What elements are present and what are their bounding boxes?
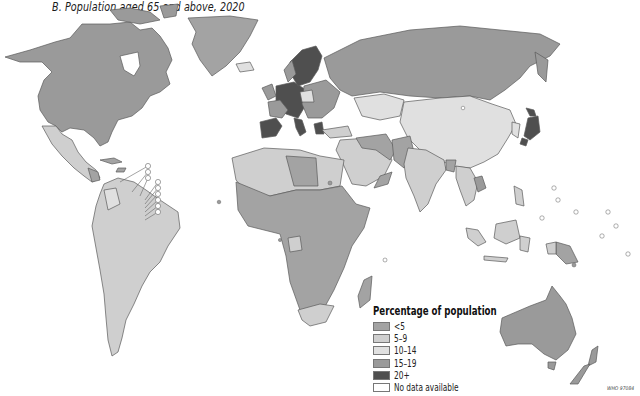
legend-label: <5 [394, 321, 405, 332]
legend-swatch [373, 359, 390, 368]
world-choropleth-map [0, 0, 640, 396]
map-legend: Percentage of population <5 5–9 10–14 15… [373, 304, 528, 394]
figure-credit: WHO 97084 [607, 385, 634, 391]
region-scandinavia [290, 46, 322, 86]
legend-swatch [373, 322, 390, 331]
legend-item-10-14: 10–14 [373, 345, 528, 357]
region-north-america [5, 22, 172, 146]
legend-item-lt5: <5 [373, 320, 528, 332]
legend-swatch [373, 346, 390, 355]
region-new-zealand [588, 346, 598, 366]
region-russia [324, 26, 560, 100]
legend-swatch [373, 371, 390, 380]
legend-label: 15–19 [394, 358, 416, 369]
legend-swatch [373, 383, 390, 392]
region-india [404, 148, 446, 212]
legend-item-5-9: 5–9 [373, 332, 528, 344]
legend-item-no-data: No data available [373, 381, 528, 393]
legend-label: No data available [394, 382, 459, 393]
region-sub-saharan-africa [236, 182, 370, 322]
legend-title: Percentage of population [373, 304, 497, 318]
legend-swatch [373, 334, 390, 343]
legend-item-15-19: 15–19 [373, 357, 528, 369]
legend-label: 20+ [394, 370, 410, 381]
region-japan [526, 108, 536, 116]
legend-label: 5–9 [394, 333, 407, 344]
legend-label: 10–14 [394, 345, 416, 356]
legend-item-20plus: 20+ [373, 369, 528, 381]
region-indonesia [466, 228, 486, 246]
region-south-america [92, 178, 180, 356]
